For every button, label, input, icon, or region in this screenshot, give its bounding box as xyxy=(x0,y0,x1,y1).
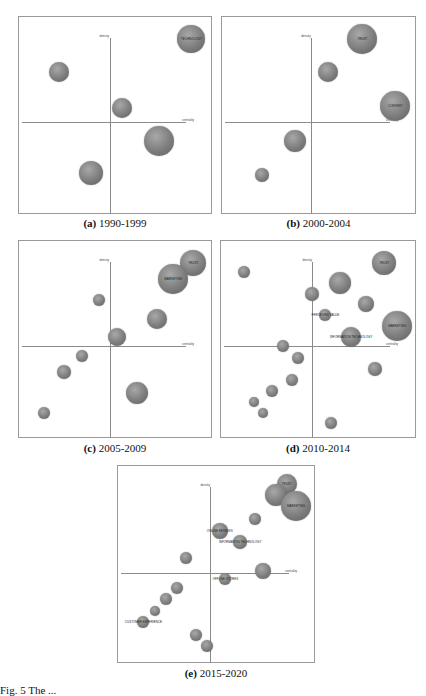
bubble-label: CONTENT xyxy=(388,104,403,108)
theme-bubble xyxy=(201,640,213,652)
theme-bubble xyxy=(147,309,167,329)
bubble-label: INFORMATION TECHNOLOGY xyxy=(219,540,262,544)
theme-bubble: MARKETING xyxy=(382,311,412,341)
bubble-label: MARKETING xyxy=(388,324,406,328)
theme-bubble: TECHNOLOGY xyxy=(177,25,205,53)
theme-bubble: TRUST xyxy=(372,251,396,275)
bubble-label: INFORMATION TECHNOLOGY xyxy=(330,335,373,339)
bubble-label: TRUST xyxy=(379,261,389,265)
bubble-label: CUSTOMER EXPERIENCE xyxy=(125,620,162,624)
bubble-label: PERCEIVED VALUE xyxy=(311,313,339,317)
centrality-axis-label: centrality xyxy=(182,118,194,122)
theme-bubble xyxy=(368,362,382,376)
theme-bubble xyxy=(358,296,374,312)
theme-bubble xyxy=(49,62,69,82)
bubble-label: ONLINE REVIEWS xyxy=(207,529,233,533)
caption-c: (c) 2005-2009 xyxy=(18,442,212,454)
centrality-axis-label: centrality xyxy=(182,342,194,346)
bubble-label: TRUST xyxy=(357,37,367,41)
centrality-axis xyxy=(22,122,186,123)
bubble-label: TRUST xyxy=(282,482,292,486)
density-axis xyxy=(110,262,111,438)
theme-bubble xyxy=(284,130,306,152)
theme-bubble xyxy=(325,417,337,429)
theme-bubble: TRUST xyxy=(347,24,377,54)
theme-bubble xyxy=(190,629,202,641)
centrality-axis xyxy=(22,346,186,347)
centrality-axis xyxy=(225,122,390,123)
theme-bubble xyxy=(150,606,160,616)
theme-bubble: INFORMATION TECHNOLOGY xyxy=(233,535,247,549)
theme-bubble xyxy=(266,385,278,397)
theme-bubble xyxy=(112,98,132,118)
theme-bubble xyxy=(93,294,105,306)
theme-bubble: ONLINE REVIEWS xyxy=(212,523,228,539)
theme-bubble xyxy=(79,161,103,185)
density-axis xyxy=(311,38,312,214)
theme-bubble xyxy=(318,62,338,82)
theme-bubble xyxy=(255,168,269,182)
caption-e: (e) 2015-2020 xyxy=(117,667,315,679)
theme-bubble xyxy=(108,328,126,346)
theme-bubble xyxy=(144,126,174,156)
centrality-axis-label: centrality xyxy=(386,342,398,346)
caption-a: (a) 1990-1999 xyxy=(18,217,212,229)
density-axis-label: density xyxy=(302,258,312,262)
bubble-label: MARKETING xyxy=(287,504,305,508)
density-axis-label: density xyxy=(100,258,110,262)
theme-bubble: CONTENT xyxy=(380,91,410,121)
centrality-axis xyxy=(224,346,390,347)
bubble-label: TRUST xyxy=(188,261,198,265)
caption-d: (d) 2010-2014 xyxy=(220,442,416,454)
centrality-axis-label: centrality xyxy=(285,569,297,573)
theme-bubble xyxy=(255,563,271,579)
theme-bubble xyxy=(292,352,304,364)
bubble-label: MARKETING xyxy=(164,277,182,281)
bubble-label: TECHNOLOGY xyxy=(181,37,202,41)
density-axis xyxy=(210,487,211,663)
density-axis-label: density xyxy=(100,34,110,38)
density-axis-label: density xyxy=(301,34,311,38)
density-axis-label: density xyxy=(200,483,210,487)
figure-caption: Fig. 5 The ... xyxy=(0,684,56,696)
caption-b: (b) 2000-2004 xyxy=(221,217,416,229)
density-axis xyxy=(110,38,111,214)
theme-bubble xyxy=(76,350,88,362)
theme-bubble xyxy=(126,382,148,404)
theme-bubble xyxy=(249,397,259,407)
bubble-label: OFFLINE STORES xyxy=(212,577,238,581)
